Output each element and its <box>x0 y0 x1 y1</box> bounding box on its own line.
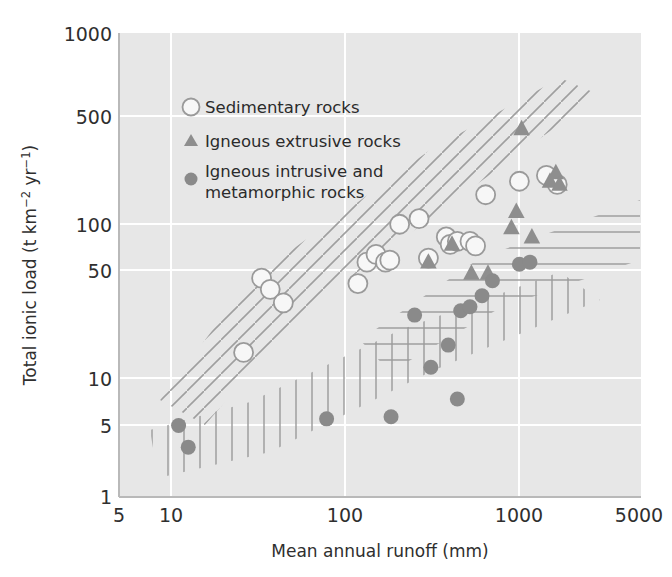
x-axis-ticks: 5 10 100 1000 5000 <box>113 504 663 526</box>
data-point <box>274 293 293 312</box>
y-tick-label: 10 <box>88 368 112 390</box>
data-point <box>510 172 529 191</box>
y-axis-title: Total ionic load (t km−2 yr−1) <box>19 145 40 386</box>
data-point <box>348 274 367 293</box>
filled-circle-icon <box>185 173 198 186</box>
data-point <box>475 288 490 303</box>
chart-figure: 5 10 100 1000 5000 1000 500 100 50 10 5 … <box>0 0 672 577</box>
legend-label-igneous-extrusive: Igneous extrusive rocks <box>205 132 401 151</box>
y-tick-label: 1 <box>100 486 112 508</box>
data-point <box>181 440 196 455</box>
data-point <box>171 418 186 433</box>
x-tick-label: 5000 <box>615 504 663 526</box>
data-point <box>522 255 537 270</box>
x-tick-label: 10 <box>159 504 183 526</box>
legend-item-igneous-extrusive: Igneous extrusive rocks <box>184 132 401 151</box>
data-point <box>390 215 409 234</box>
data-point <box>441 338 456 353</box>
data-point <box>423 360 438 375</box>
data-point <box>476 185 495 204</box>
x-tick-label: 100 <box>327 504 363 526</box>
x-tick-label: 5 <box>113 504 125 526</box>
y-axis-title-mid: yr <box>20 168 40 190</box>
y-tick-label: 500 <box>76 106 112 128</box>
scatter-plot-svg: 5 10 100 1000 5000 1000 500 100 50 10 5 … <box>0 0 672 577</box>
data-point <box>410 209 429 228</box>
legend-label-igneous-intrusive-line2: metamorphic rocks <box>205 183 364 202</box>
legend-label-igneous-intrusive: Igneous intrusive and <box>205 162 383 181</box>
y-axis-ticks: 1000 500 100 50 10 5 1 <box>64 23 112 508</box>
y-axis-title-sup2: −1 <box>19 151 33 168</box>
data-point <box>380 251 399 270</box>
x-tick-label: 1000 <box>495 504 543 526</box>
data-point <box>384 409 399 424</box>
open-circle-icon <box>183 99 200 116</box>
data-point <box>319 411 334 426</box>
x-axis-title: Mean annual runoff (mm) <box>271 541 488 561</box>
y-tick-label: 5 <box>100 415 112 437</box>
data-point <box>407 308 422 323</box>
y-axis-title-lead: Total ionic load (t km <box>20 208 40 386</box>
y-axis-title-sup1: −2 <box>19 191 33 208</box>
data-point <box>462 299 477 314</box>
legend-label-sedimentary: Sedimentary rocks <box>205 98 359 117</box>
y-tick-label: 1000 <box>64 23 112 45</box>
y-tick-label: 50 <box>88 260 112 282</box>
svg-text:Total ionic load (t km−2 yr−1): Total ionic load (t km−2 yr−1) <box>19 145 40 386</box>
data-point <box>234 343 253 362</box>
data-point <box>485 273 500 288</box>
data-point <box>466 236 485 255</box>
data-point <box>450 392 465 407</box>
y-tick-label: 100 <box>76 214 112 236</box>
y-axis-title-tail: ) <box>20 145 40 152</box>
legend-item-sedimentary: Sedimentary rocks <box>183 98 360 117</box>
